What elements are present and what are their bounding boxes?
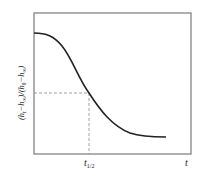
- y-axis-label: (ht−h∞)/(h0−h∞): [16, 66, 27, 121]
- plot-frame: [34, 13, 191, 154]
- half-life-decay-chart: t1/2 t (ht−h∞)/(h0−h∞): [0, 0, 205, 178]
- x-axis-label: t: [185, 157, 188, 168]
- x-tick-t-half: t1/2: [84, 157, 94, 169]
- decay-curve: [34, 33, 166, 137]
